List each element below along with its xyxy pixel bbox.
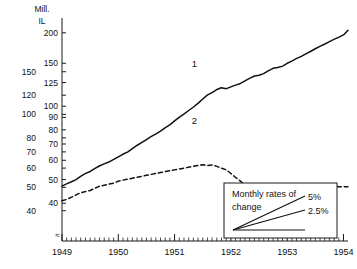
y-tick-label-inner: 90 [49,112,59,122]
y-tick-label-outer: 150 [22,67,36,77]
legend-slope-label-2-5: 2.5% [308,206,329,216]
y-axis-unit-line-2: IL [38,16,45,26]
y-tick-label-inner: 50 [49,175,59,185]
x-tick-label: 1951 [165,247,185,257]
series-2-label: 2 [192,115,197,126]
y-tick-label-inner: 60 [49,155,59,165]
y-tick-label-outer: 70 [27,147,37,157]
y-axis-unit-line-1: Mill. [34,4,49,14]
y-tick-label-outer: 80 [27,133,37,143]
x-tick-label: 1953 [277,247,297,257]
y-tick-label-outer: 40 [27,206,37,216]
series-1-label: 1 [192,58,197,69]
axis-break-mark: ≈ [55,230,60,240]
chart-container: 2001501251009080706050401501201008070605… [0,0,357,269]
y-tick-label-outer: 50 [27,182,37,192]
x-tick-label: 1952 [221,247,241,257]
y-tick-label-outer: 60 [27,163,37,173]
x-tick-label: 1949 [52,247,72,257]
y-tick-label-outer: 120 [22,90,36,100]
semi-log-line-chart: 2001501251009080706050401501201008070605… [0,0,357,269]
y-tick-label-inner: 70 [49,139,59,149]
x-tick-label: 1950 [108,247,128,257]
legend-slope-label-5: 5% [308,192,321,202]
series-line-1 [62,30,348,186]
y-tick-label-inner: 200 [44,28,58,38]
y-tick-label-inner: 80 [49,125,59,135]
y-tick-label-inner: 40 [49,198,59,208]
x-tick-label: 1954 [333,247,353,257]
y-tick-label-inner: 125 [44,78,58,88]
y-tick-label-outer: 100 [22,109,36,119]
y-tick-label-inner: 150 [44,58,58,68]
y-tick-label-inner: 100 [44,101,58,111]
legend-title-line-1: Monthly rates of [232,189,297,199]
legend-title-line-2: change [232,202,262,212]
